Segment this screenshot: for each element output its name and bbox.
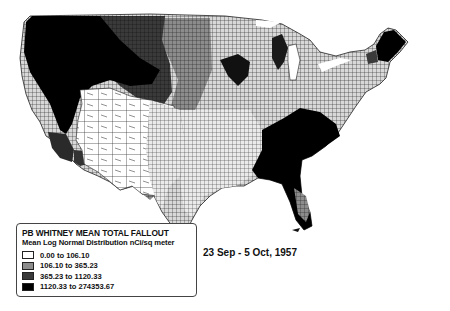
map-legend: PB WHITNEY MEAN TOTAL FALLOUT Mean Log N… — [16, 223, 197, 297]
legend-label: 106.10 to 365.23 — [40, 261, 98, 270]
legend-label: 1120.33 to 274353.67 — [40, 282, 114, 291]
florida-keys — [292, 228, 300, 232]
legend-swatch-class3 — [22, 272, 34, 280]
region-south-central-light — [180, 110, 262, 218]
legend-swatch-class1 — [22, 251, 34, 259]
legend-swatch-class2 — [22, 262, 34, 270]
date-range-label: 23 Sep - 5 Oct, 1957 — [203, 247, 297, 258]
legend-item: 106.10 to 365.23 — [22, 261, 191, 272]
legend-title: PB WHITNEY MEAN TOTAL FALLOUT — [22, 228, 191, 238]
legend-swatch-class4 — [22, 283, 34, 291]
legend-label: 365.23 to 1120.33 — [40, 272, 102, 281]
legend-item: 365.23 to 1120.33 — [22, 271, 191, 282]
legend-label: 0.00 to 106.10 — [40, 251, 89, 260]
legend-subtitle: Mean Log Normal Distribution nCi/sq mete… — [22, 238, 191, 248]
legend-item: 0.00 to 106.10 — [22, 250, 191, 261]
legend-item: 1120.33 to 274353.67 — [22, 282, 191, 293]
